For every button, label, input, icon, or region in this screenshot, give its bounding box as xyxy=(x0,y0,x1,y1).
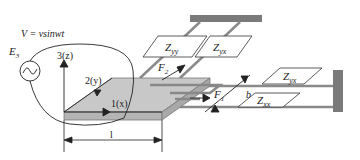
width-label: b xyxy=(246,89,251,100)
voltage-label: V = vsinwt xyxy=(21,28,64,39)
y-axis-label: 2(y) xyxy=(85,75,102,87)
x-axis-label: 1(x) xyxy=(111,98,128,110)
top-wall xyxy=(190,15,262,22)
force-f2-label: F2 xyxy=(157,61,169,76)
source-name: E3 xyxy=(8,45,20,60)
length-label: l xyxy=(110,129,113,140)
piezo-plate-diagram: V = vsinwt E3 3(z) 2(y) 1(x) l b F2 F1 Z… xyxy=(0,0,360,160)
z-axis-label: 3(z) xyxy=(57,50,73,62)
right-wall xyxy=(333,70,343,112)
